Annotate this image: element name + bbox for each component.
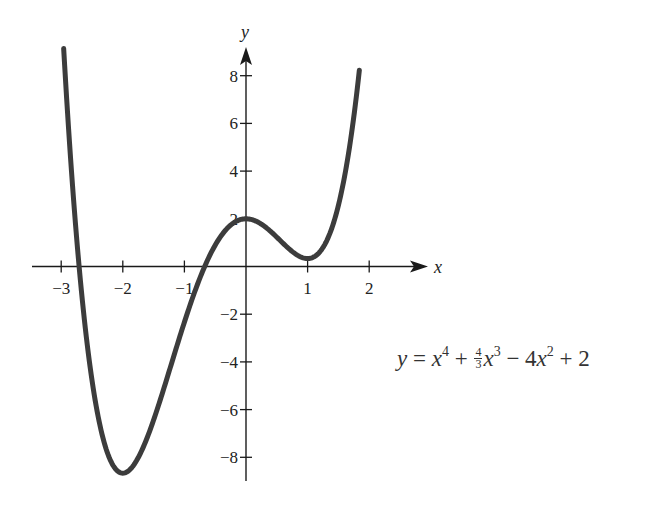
eq-power: 3	[494, 344, 501, 359]
x-tick-label: −3	[52, 279, 70, 298]
y-tick-label: 6	[230, 114, 239, 133]
eq-x: x	[537, 346, 547, 371]
eq-denominator: 3	[474, 359, 482, 370]
eq-constant: + 2	[554, 346, 590, 371]
eq-x: x	[483, 346, 493, 371]
y-tick-label: 4	[230, 162, 239, 181]
eq-minus: − 4	[501, 346, 537, 371]
x-tick-label: 1	[303, 279, 312, 298]
y-tick-label: −6	[220, 401, 238, 420]
eq-fraction: 43	[474, 347, 482, 370]
y-tick-label: 8	[230, 67, 239, 86]
eq-power: 2	[547, 344, 554, 359]
y-tick-label: −2	[220, 305, 238, 324]
function-plot: xy −3−2−1128642−2−4−6−8	[0, 0, 663, 505]
eq-equals: =	[407, 346, 431, 371]
eq-y: y	[397, 346, 407, 371]
x-tick-label: −1	[175, 279, 193, 298]
function-curve	[64, 49, 360, 474]
y-tick-label: −8	[220, 448, 238, 467]
eq-x: x	[432, 346, 442, 371]
x-axis-label: x	[433, 257, 442, 277]
eq-power: 4	[442, 344, 449, 359]
y-tick-label: −4	[220, 353, 239, 372]
eq-plus: +	[449, 346, 473, 371]
x-tick-label: 2	[365, 279, 374, 298]
x-tick-label: −2	[114, 279, 132, 298]
y-axis-label: y	[239, 22, 249, 42]
equation-label: y = x4 + 43x3 − 4x2 + 2	[397, 346, 590, 372]
